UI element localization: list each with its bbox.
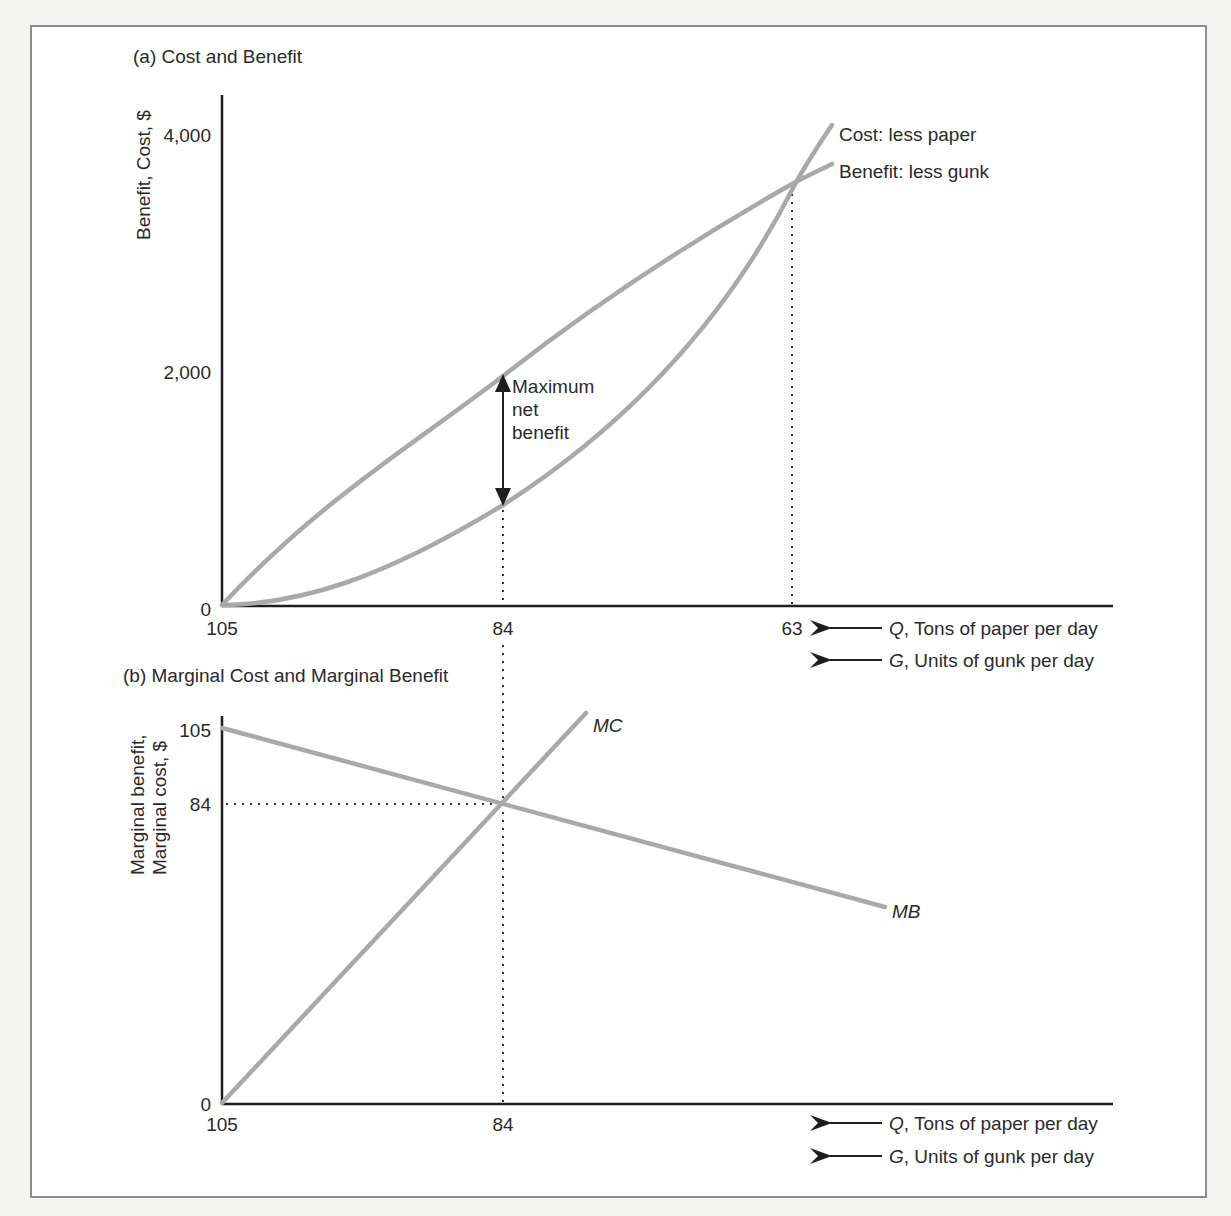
cost-curve xyxy=(222,125,832,605)
panel-b-ytick-0: 0 xyxy=(200,1094,211,1115)
panel-b-xtick-84: 84 xyxy=(492,1114,514,1135)
panel-a-y-axis-label: Benefit, Cost, $ xyxy=(133,110,154,240)
panel-b: (b) Marginal Cost and Marginal Benefit M… xyxy=(123,665,1113,1167)
benefit-curve-label: Benefit: less gunk xyxy=(839,161,989,182)
panel-b-title: (b) Marginal Cost and Marginal Benefit xyxy=(123,665,449,686)
panel-b-y-axis-label-line2: Marginal cost, $ xyxy=(149,740,170,875)
mb-curve xyxy=(222,728,885,907)
panel-a-ytick-0: 0 xyxy=(200,599,211,620)
panel-a-q-axis-label: Q, Tons of paper per day xyxy=(889,618,1098,639)
panel-a-ytick-4000: 4,000 xyxy=(163,125,211,146)
panel-b-ytick-105: 105 xyxy=(179,720,211,741)
annotation-line-3: benefit xyxy=(512,422,570,443)
panel-a-xtick-84: 84 xyxy=(492,618,514,639)
annotation-line-2: net xyxy=(512,399,539,420)
mb-label: MB xyxy=(892,901,921,922)
annotation-line-1: Maximum xyxy=(512,376,594,397)
mc-curve xyxy=(222,713,586,1103)
panel-a-title: (a) Cost and Benefit xyxy=(133,46,303,67)
panel-a-xtick-105: 105 xyxy=(206,618,238,639)
panel-a-g-axis-label: G, Units of gunk per day xyxy=(889,650,1094,671)
panel-b-y-axis-label-line1: Marginal benefit, xyxy=(127,735,148,875)
figure-svg: (a) Cost and Benefit Benefit, Cost, $ 4,… xyxy=(0,0,1231,1216)
panel-a-ytick-2000: 2,000 xyxy=(163,362,211,383)
cost-curve-label: Cost: less paper xyxy=(839,124,977,145)
mc-label: MC xyxy=(593,715,623,736)
panel-b-q-axis-label: Q, Tons of paper per day xyxy=(889,1113,1098,1134)
panel-a-xtick-63: 63 xyxy=(781,618,802,639)
panel-b-g-axis-label: G, Units of gunk per day xyxy=(889,1146,1094,1167)
panel-b-ytick-84: 84 xyxy=(190,794,212,815)
panel-a: (a) Cost and Benefit Benefit, Cost, $ 4,… xyxy=(133,46,1113,671)
panel-b-xtick-105: 105 xyxy=(206,1114,238,1135)
